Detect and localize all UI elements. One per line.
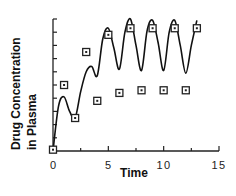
x-axis-title: Time bbox=[120, 166, 148, 180]
data-marker bbox=[105, 31, 112, 38]
data-marker bbox=[138, 87, 145, 94]
x-tick-label-0: 0 bbox=[50, 159, 56, 171]
drug-concentration-chart: Drug Concentration in Plasma 0 5 10 15 T… bbox=[0, 0, 236, 196]
data-marker bbox=[83, 49, 90, 56]
data-marker bbox=[127, 25, 134, 32]
concentration-curve bbox=[53, 19, 197, 151]
x-tick-label-15: 15 bbox=[211, 159, 226, 171]
data-marker bbox=[182, 87, 189, 94]
data-marker bbox=[72, 115, 79, 122]
data-marker bbox=[160, 87, 167, 94]
y-axis-title-line2: in Plasma bbox=[25, 94, 39, 150]
data-marker bbox=[94, 97, 101, 104]
dose-markers bbox=[50, 25, 201, 153]
data-marker bbox=[171, 25, 178, 32]
axes bbox=[53, 19, 219, 151]
x-tick-label-5: 5 bbox=[105, 159, 111, 171]
y-axis-title: Drug Concentration in Plasma bbox=[9, 37, 39, 150]
data-marker bbox=[149, 25, 156, 32]
data-marker bbox=[193, 25, 200, 32]
x-tick-label-10: 10 bbox=[156, 159, 171, 171]
data-marker bbox=[61, 82, 68, 89]
data-marker bbox=[116, 89, 123, 96]
x-ticks bbox=[53, 146, 219, 151]
y-axis-title-line1: Drug Concentration bbox=[9, 37, 23, 150]
data-marker bbox=[50, 146, 57, 153]
